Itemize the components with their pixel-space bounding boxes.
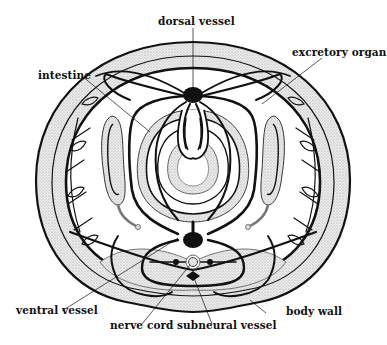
intestine <box>137 110 248 222</box>
label-nerve-cord: nerve cord <box>110 320 174 331</box>
label-body-wall: body wall <box>286 306 342 317</box>
label-ventral-vessel: ventral vessel <box>16 305 98 316</box>
label-dorsal-vessel: dorsal vessel <box>158 16 235 27</box>
label-excretory-organ: excretory organ <box>292 47 387 58</box>
label-intestine: intestine <box>38 70 91 81</box>
dorsal-vessel-node <box>183 87 203 103</box>
diagram-canvas: dorsal vessel intestine excretory organ … <box>0 0 387 345</box>
label-subneural-vessel: subneural vessel <box>177 320 277 331</box>
ventral-vessel-node <box>183 232 203 248</box>
